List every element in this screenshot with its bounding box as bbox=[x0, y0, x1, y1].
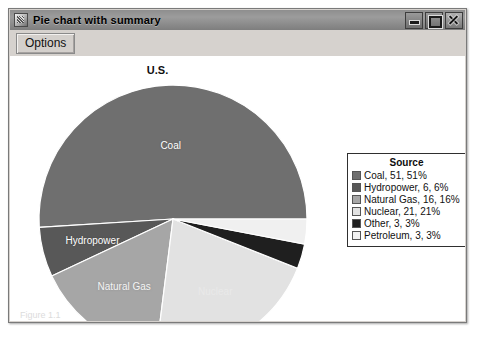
chart-panel: U.S. CoalHydropowerNatural GasNuclear So… bbox=[10, 56, 465, 321]
legend-swatch bbox=[352, 171, 361, 180]
legend-swatch bbox=[352, 231, 361, 240]
page-caption: Figure 1.1 bbox=[20, 310, 61, 320]
maximize-icon[interactable] bbox=[425, 12, 443, 29]
legend-item: Nuclear, 21, 21% bbox=[352, 206, 461, 217]
app-icon bbox=[14, 13, 28, 27]
application-window: Pie chart with summary Options U.S. Coal… bbox=[8, 8, 467, 323]
legend-item: Coal, 51, 51% bbox=[352, 170, 461, 181]
legend-label: Other, 3, 3% bbox=[364, 218, 420, 229]
legend-label: Nuclear, 21, 21% bbox=[364, 206, 440, 217]
chart-title: U.S. bbox=[10, 64, 465, 76]
legend-swatch bbox=[352, 219, 361, 228]
minimize-icon[interactable] bbox=[405, 12, 423, 29]
pie-slice bbox=[39, 85, 307, 227]
legend: Source Coal, 51, 51%Hydropower, 6, 6%Nat… bbox=[347, 153, 465, 247]
legend-item: Hydropower, 6, 6% bbox=[352, 182, 461, 193]
window-title: Pie chart with summary bbox=[33, 14, 403, 26]
legend-item: Natural Gas, 16, 16% bbox=[352, 194, 461, 205]
title-bar[interactable]: Pie chart with summary bbox=[10, 10, 465, 30]
close-icon[interactable] bbox=[445, 12, 463, 29]
legend-label: Hydropower, 6, 6% bbox=[364, 182, 449, 193]
pie-chart: CoalHydropowerNatural GasNuclear bbox=[37, 83, 309, 321]
pie-svg bbox=[37, 83, 309, 321]
legend-label: Natural Gas, 16, 16% bbox=[364, 194, 460, 205]
legend-swatch bbox=[352, 207, 361, 216]
options-button[interactable]: Options bbox=[16, 33, 75, 54]
legend-swatch bbox=[352, 183, 361, 192]
legend-swatch bbox=[352, 195, 361, 204]
legend-label: Coal, 51, 51% bbox=[364, 170, 427, 181]
legend-label: Petroleum, 3, 3% bbox=[364, 230, 441, 241]
legend-rows: Coal, 51, 51%Hydropower, 6, 6%Natural Ga… bbox=[352, 170, 461, 241]
legend-title: Source bbox=[352, 157, 461, 168]
toolbar: Options bbox=[10, 30, 465, 56]
legend-item: Petroleum, 3, 3% bbox=[352, 230, 461, 241]
legend-item: Other, 3, 3% bbox=[352, 218, 461, 229]
